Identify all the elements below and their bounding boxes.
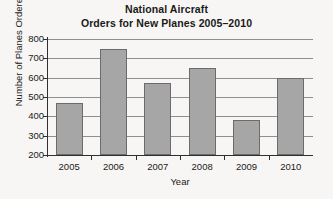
y-tick-label-700: 700 xyxy=(4,53,44,63)
gridline-500 xyxy=(47,97,313,98)
y-tick-mark-200 xyxy=(43,155,48,156)
x-tick-label-2010: 2010 xyxy=(269,162,313,172)
bar-2008 xyxy=(189,68,216,155)
y-tick-mark-300 xyxy=(43,136,48,137)
x-tick-mark-3 xyxy=(180,155,181,160)
bar-2006 xyxy=(100,49,127,155)
y-tick-label-800: 800 xyxy=(4,34,44,44)
gridline-600 xyxy=(47,78,313,79)
bar-2005 xyxy=(56,103,83,155)
x-axis-title: Year xyxy=(47,176,313,187)
x-tick-mark-1 xyxy=(91,155,92,160)
chart-title-line-2: Orders for New Planes 2005–2010 xyxy=(0,17,333,31)
y-tick-label-200: 200 xyxy=(4,150,44,160)
y-tick-mark-500 xyxy=(43,97,48,98)
gridline-800 xyxy=(47,39,313,40)
y-tick-label-300: 300 xyxy=(4,131,44,141)
bar-2009 xyxy=(233,120,260,155)
y-tick-mark-400 xyxy=(43,116,48,117)
chart-title: National Aircraft Orders for New Planes … xyxy=(0,3,333,30)
y-tick-label-600: 600 xyxy=(4,73,44,83)
x-tick-mark-5 xyxy=(269,155,270,160)
x-tick-label-2008: 2008 xyxy=(180,162,224,172)
y-tick-mark-700 xyxy=(43,58,48,59)
y-tick-mark-600 xyxy=(43,78,48,79)
x-tick-label-2007: 2007 xyxy=(136,162,180,172)
y-tick-mark-800 xyxy=(43,39,48,40)
plot-area xyxy=(47,39,313,155)
bar-chart-figure: National Aircraft Orders for New Planes … xyxy=(0,0,333,199)
gridline-300 xyxy=(47,136,313,137)
chart-title-line-1: National Aircraft xyxy=(0,3,333,17)
x-tick-label-2009: 2009 xyxy=(225,162,269,172)
gridline-700 xyxy=(47,58,313,59)
y-tick-label-500: 500 xyxy=(4,92,44,102)
gridline-400 xyxy=(47,116,313,117)
y-tick-label-400: 400 xyxy=(4,111,44,121)
x-tick-mark-4 xyxy=(224,155,225,160)
bar-2010 xyxy=(277,78,304,155)
x-tick-label-2005: 2005 xyxy=(47,162,91,172)
x-tick-label-2006: 2006 xyxy=(92,162,136,172)
x-tick-mark-2 xyxy=(136,155,137,160)
bar-2007 xyxy=(144,83,171,155)
